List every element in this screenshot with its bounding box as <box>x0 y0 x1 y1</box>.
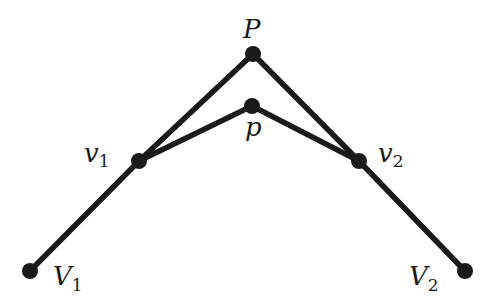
label-p: p <box>245 112 262 142</box>
point-v1 <box>131 153 147 169</box>
point-V2 <box>457 263 473 279</box>
edge-p-v2 <box>252 106 359 161</box>
label-v2: v2 <box>378 138 404 171</box>
edge-v2-V2 <box>359 161 465 271</box>
label-V2: V2 <box>409 261 439 295</box>
edge-v1-p <box>139 106 252 161</box>
label-v1: v1 <box>84 138 110 171</box>
diagram-canvas: P p v1 v2 V1 V2 <box>0 0 502 304</box>
edge-P-v2 <box>253 54 359 161</box>
point-P <box>245 46 261 62</box>
point-V1 <box>22 263 38 279</box>
edge-v1-P <box>139 54 253 161</box>
edge-V1-v1 <box>30 161 139 271</box>
label-P: P <box>242 14 261 44</box>
point-v2 <box>351 153 367 169</box>
label-V1: V1 <box>53 261 83 295</box>
